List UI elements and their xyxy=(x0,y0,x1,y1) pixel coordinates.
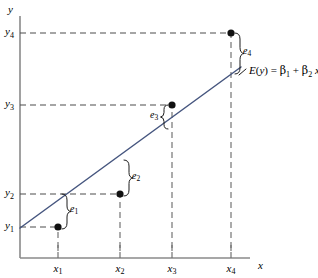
y-tick-label-y3: y3 xyxy=(5,98,14,111)
x-axis-label: x xyxy=(258,260,263,271)
data-point-2 xyxy=(116,190,123,197)
data-point-3 xyxy=(168,101,175,108)
equation-E: E xyxy=(249,64,256,76)
y-tick-label-y1: y1 xyxy=(5,220,14,233)
residual-label-e4: e4 xyxy=(243,46,251,58)
regression-line xyxy=(20,67,241,228)
equation-equals: = xyxy=(271,64,277,76)
equation-plus: + xyxy=(293,64,299,76)
plot-canvas xyxy=(0,0,318,278)
y-tick-label-y4: y4 xyxy=(5,26,14,39)
data-point-4 xyxy=(227,29,234,36)
x-tick-label-x3: x3 xyxy=(168,263,177,276)
residual-label-e3: e3 xyxy=(150,110,158,122)
equation-beta2-sub: 2 xyxy=(308,70,312,79)
regression-figure: y x y4 y3 y2 y1 x1 x2 x3 x4 e1 e2 e3 e4 … xyxy=(0,0,318,278)
y-tick-label-y2: y2 xyxy=(5,187,14,200)
equation-x: x xyxy=(315,64,318,76)
x-tick-label-x2: x2 xyxy=(116,263,125,276)
y-axis-label: y xyxy=(8,4,13,15)
data-point-1 xyxy=(54,223,61,230)
x-tick-label-x1: x1 xyxy=(54,263,63,276)
residual-label-e2: e2 xyxy=(132,171,140,183)
regression-equation-label: E(y) = β1 + β2 x xyxy=(249,65,318,78)
residual-label-e1: e1 xyxy=(70,204,78,216)
x-tick-label-x4: x4 xyxy=(227,263,236,276)
equation-beta1-sub: 1 xyxy=(286,70,290,79)
equation-paren-close: ) xyxy=(264,64,268,76)
